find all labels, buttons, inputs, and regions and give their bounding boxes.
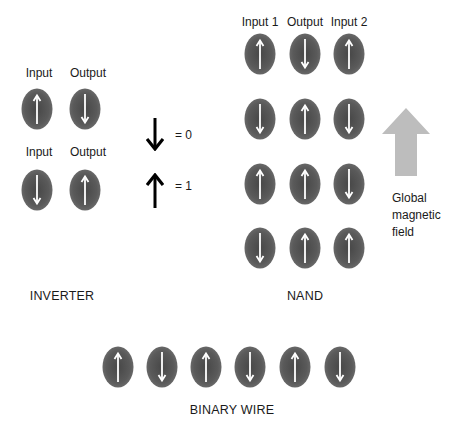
nanomagnet-down-icon: [69, 88, 101, 130]
arrow-down-icon: [146, 117, 164, 151]
nanomagnet-down-icon: [289, 33, 321, 75]
nanomagnet-up-icon: [69, 169, 101, 211]
nanomagnet-up-icon: [333, 33, 365, 75]
field-label-line3: field: [392, 224, 441, 241]
nanomagnet-up-icon: [289, 98, 321, 140]
nand-input2-label: Input 2: [331, 15, 368, 29]
nanomagnet-down-icon: [244, 227, 276, 269]
nanomagnet-down-icon: [234, 346, 266, 388]
nanomagnet-down-icon: [21, 169, 53, 211]
nanomagnet-up-icon: [244, 33, 276, 75]
legend-zero-label: = 0: [175, 128, 192, 142]
inverter-title: INVERTER: [30, 289, 95, 303]
field-label-line1: Global: [392, 190, 441, 207]
arrow-up-icon: [146, 173, 164, 209]
field-label: Global magnetic field: [392, 190, 441, 241]
nanomagnet-up-icon: [190, 346, 222, 388]
nanomagnet-down-icon: [333, 163, 365, 205]
nand-input1-label: Input 1: [242, 15, 279, 29]
legend-one-label: = 1: [175, 179, 192, 193]
nanomagnet-up-icon: [21, 88, 53, 130]
nanomagnet-down-icon: [146, 346, 178, 388]
nanomagnet-up-icon: [289, 163, 321, 205]
nanomagnet-up-icon: [333, 227, 365, 269]
inverter-row2-input-label: Input: [26, 145, 53, 159]
nanomagnet-up-icon: [244, 163, 276, 205]
nanomagnet-up-icon: [102, 346, 134, 388]
inverter-row1-input-label: Input: [26, 66, 53, 80]
nanomagnet-down-icon: [333, 98, 365, 140]
nanomagnet-down-icon: [244, 98, 276, 140]
nand-output-label: Output: [287, 15, 323, 29]
inverter-row1-output-label: Output: [70, 66, 106, 80]
field-label-line2: magnetic: [392, 207, 441, 224]
nanomagnet-down-icon: [324, 346, 356, 388]
nanomagnet-up-icon: [279, 346, 311, 388]
nand-title: NAND: [287, 289, 323, 303]
nanomagnet-up-icon: [289, 227, 321, 269]
binary-wire-title: BINARY WIRE: [190, 403, 274, 417]
field-arrow-up-icon: [381, 107, 431, 177]
inverter-row2-output-label: Output: [70, 145, 106, 159]
